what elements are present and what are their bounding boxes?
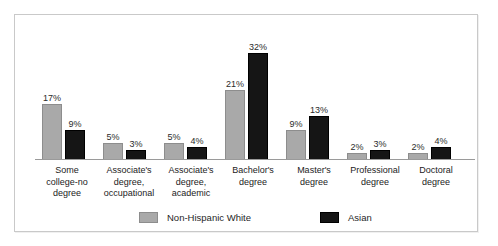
x-label-line: academic: [155, 188, 227, 200]
bar-value-label: 32%: [249, 43, 267, 52]
bar-value-label: 5%: [167, 133, 180, 142]
bar-white-associates-occupational: 5%: [103, 143, 123, 160]
bar-white-some-college: 17%: [42, 104, 62, 160]
bar-asian-masters: 13%: [309, 116, 329, 160]
bar-white-associates-academic: 5%: [164, 143, 184, 160]
x-label-line: Doctoral: [400, 165, 472, 177]
chart-frame: 17% 9% 5% 3% 5%: [14, 14, 478, 232]
legend-item-non-hispanic-white: Non-Hispanic White: [139, 212, 251, 223]
black-swatch-icon: [320, 212, 339, 223]
bar-value-label: 13%: [310, 106, 328, 115]
x-axis-category-labels: Some college-no degree Associate's degre…: [37, 165, 477, 207]
bar-asian-bachelors: 32%: [248, 53, 268, 160]
bar-value-label: 3%: [129, 140, 142, 149]
bar-chart-figure: 17% 9% 5% 3% 5%: [0, 0, 498, 246]
bar-value-label: 3%: [373, 140, 386, 149]
legend-label: Non-Hispanic White: [167, 213, 251, 223]
legend-label: Asian: [348, 213, 372, 223]
bar-value-label: 2%: [350, 143, 363, 152]
bar-value-label: 21%: [226, 80, 244, 89]
bar-value-label: 5%: [106, 133, 119, 142]
bar-white-masters: 9%: [286, 130, 306, 160]
legend-item-asian: Asian: [320, 212, 372, 223]
x-axis-line: [35, 159, 475, 160]
bar-value-label: 17%: [43, 94, 61, 103]
bar-value-label: 4%: [190, 137, 203, 146]
plot-area: 17% 9% 5% 3% 5%: [37, 21, 461, 160]
bar-value-label: 9%: [289, 120, 302, 129]
x-label-doctoral: Doctoral degree: [400, 165, 472, 188]
bar-white-bachelors: 21%: [225, 90, 245, 160]
gray-swatch-icon: [139, 212, 158, 223]
bar-value-label: 4%: [434, 137, 447, 146]
bar-value-label: 9%: [68, 120, 81, 129]
chart-legend: Non-Hispanic White Asian: [15, 208, 479, 232]
bar-value-label: 2%: [411, 143, 424, 152]
x-label-line: degree: [400, 177, 472, 189]
bar-asian-some-college: 9%: [65, 130, 85, 160]
